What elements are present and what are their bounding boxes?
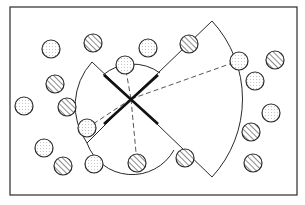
dashed-line-group <box>87 61 238 163</box>
dotted-circle-marker <box>15 97 33 115</box>
center-cross <box>104 75 158 124</box>
diagram-canvas <box>0 0 305 205</box>
hatched-circle-marker <box>176 149 194 167</box>
dotted-circle-marker <box>246 72 264 90</box>
hatched-circle-marker <box>242 123 260 141</box>
dotted-circle-marker <box>262 104 280 122</box>
dotted-circle-marker <box>116 56 134 74</box>
dotted-circle-marker <box>85 155 103 173</box>
marker-group <box>15 34 284 175</box>
hatched-circle-marker <box>46 75 64 93</box>
hatched-circle-marker <box>180 35 198 53</box>
dashed-line <box>131 99 137 163</box>
hatched-circle-marker <box>128 154 146 172</box>
dotted-circle-marker <box>230 52 248 70</box>
dotted-circle-marker <box>35 139 53 157</box>
hatched-circle-marker <box>54 157 72 175</box>
hatched-circle-marker <box>58 98 76 116</box>
dotted-circle-marker <box>42 40 60 58</box>
hatched-circle-marker <box>244 154 262 172</box>
hatched-circle-marker <box>266 51 284 69</box>
dotted-circle-marker <box>78 119 96 137</box>
coverage-diagram <box>0 0 305 205</box>
hatched-circle-marker <box>84 34 102 52</box>
dotted-circle-marker <box>139 39 157 57</box>
